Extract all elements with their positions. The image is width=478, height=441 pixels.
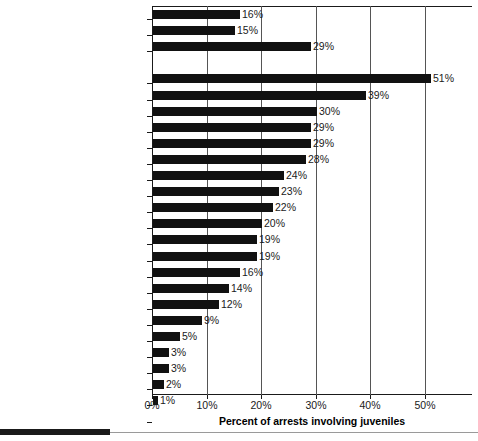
y-tick [147,293,152,294]
y-tick [147,116,152,117]
bar-value-label: 23% [281,185,302,197]
y-tick [147,212,152,213]
bar-value-label: 3% [171,346,186,358]
bar [153,284,229,293]
bar [153,139,311,148]
y-tick [147,100,152,101]
bar [153,219,262,228]
bar [153,123,311,132]
bar-value-label: 22% [275,201,296,213]
gridline-40pct [370,6,371,395]
y-tick [147,83,152,84]
bar [153,107,317,116]
bar-value-label: 51% [433,72,454,84]
bar-value-label: 30% [319,105,340,117]
bar [153,26,235,35]
gridline-50pct [425,6,426,395]
y-tick [147,19,152,20]
bar [153,42,311,51]
y-tick [147,35,152,36]
x-tick-label: 30% [294,399,338,411]
bar [153,316,202,325]
bar [153,155,306,164]
y-tick [147,389,152,390]
x-tick-label: 0% [130,399,174,411]
y-tick [147,164,152,165]
bar-value-label: 16% [242,8,263,20]
bar-value-label: 28% [308,153,329,165]
bar-value-label: 29% [313,40,334,52]
y-tick [147,373,152,374]
bar [153,380,164,389]
bar [153,348,169,357]
bar-value-label: 2% [166,378,181,390]
y-tick [147,228,152,229]
y-tick [147,148,152,149]
x-axis-line [152,394,472,395]
y-tick [147,357,152,358]
y-tick [147,244,152,245]
bar [153,332,180,341]
bar-value-label: 19% [259,233,280,245]
bar [153,268,240,277]
bar-value-label: 3% [171,362,186,374]
y-tick [147,341,152,342]
bar [153,171,284,180]
y-tick [147,132,152,133]
bar [153,300,219,309]
bar-chart: All arrests16%Violent Crime Index15%Prop… [0,0,478,441]
bar-value-label: 5% [182,330,197,342]
bar-value-label: 29% [313,121,334,133]
y-tick [147,309,152,310]
x-tick-label: 10% [185,399,229,411]
bar [153,74,431,83]
x-tick-label: 40% [348,399,392,411]
bar-value-label: 29% [313,137,334,149]
gridline-30pct [316,6,317,395]
x-tick-label: 50% [403,399,447,411]
gridline-10pct [207,6,208,395]
footer-accent-bar [0,429,110,435]
bar [153,91,366,100]
bar [153,203,273,212]
x-tick-label: 20% [239,399,283,411]
bar [153,235,257,244]
y-tick [147,325,152,326]
bar-value-label: 24% [286,169,307,181]
bar-value-label: 39% [368,89,389,101]
bar-value-label: 12% [221,298,242,310]
y-tick [147,196,152,197]
y-tick [147,277,152,278]
y-tick [147,180,152,181]
x-axis-title: Percent of arrests involving juveniles [152,415,472,427]
bar [153,364,169,373]
gridline-20pct [261,6,262,395]
y-tick [147,261,152,262]
bar [153,10,240,19]
bar-value-label: 19% [259,250,280,262]
bar-value-label: 14% [231,282,252,294]
bar [153,252,257,261]
bar-value-label: 20% [264,217,285,229]
bar-value-label: 9% [204,314,219,326]
plot-top-border [152,6,472,7]
bar-value-label: 15% [237,24,258,36]
bar [153,187,279,196]
y-tick [147,51,152,52]
bar-value-label: 16% [242,266,263,278]
